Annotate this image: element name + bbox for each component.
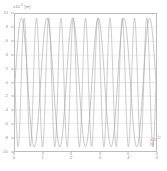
y-tick-mark [11, 26, 14, 27]
series-oscillation-fast [15, 18, 156, 147]
y-tick-label: 2 [0, 67, 8, 71]
x-tick-label: 5 [156, 155, 158, 160]
y-tick-mark [11, 96, 14, 97]
y-tick-mark [11, 13, 14, 14]
y-tick-label: 8 [0, 25, 8, 29]
y-tick-mark [11, 138, 14, 139]
y-exponent-prefix: x10 [13, 4, 20, 9]
series-oscillation-slow [15, 18, 156, 147]
data-layer [15, 14, 156, 151]
x-tick-label: 1 [41, 155, 43, 160]
x-exponent-power: -12 [156, 136, 160, 140]
y-tick-label: 10 [0, 11, 8, 15]
y-tick-label: 0 [0, 81, 8, 85]
y-tick-mark [11, 124, 14, 125]
plot-area [14, 13, 157, 152]
x-tick-label: 4 [127, 155, 129, 160]
y-tick-mark [11, 82, 14, 83]
x-tick-label: 0 [13, 155, 15, 160]
figure-panel: x10-9 [m] 1086420-2-4-6-8-10 012345 x10-… [0, 0, 167, 171]
x-tick-label: 2 [70, 155, 72, 160]
y-tick-mark [11, 68, 14, 69]
x-unit-label: [s] [150, 142, 161, 147]
y-tick-mark [11, 40, 14, 41]
y-exponent-power: -9 [20, 3, 23, 7]
y-tick-label: 4 [0, 53, 8, 57]
y-tick-label: -8 [0, 136, 8, 140]
y-tick-label: -10 [0, 150, 8, 154]
y-axis-exponent-label: x10-9 [m] [13, 2, 31, 10]
y-tick-mark [11, 54, 14, 55]
x-tick-label: 3 [99, 155, 101, 160]
x-axis-exponent-label: x10-12 [s] [150, 136, 161, 147]
y-unit-label: [m] [24, 4, 30, 9]
y-tick-mark [11, 110, 14, 111]
y-tick-label: 6 [0, 39, 8, 43]
y-tick-label: -2 [0, 94, 8, 98]
y-tick-label: -6 [0, 122, 8, 126]
y-tick-label: -4 [0, 108, 8, 112]
